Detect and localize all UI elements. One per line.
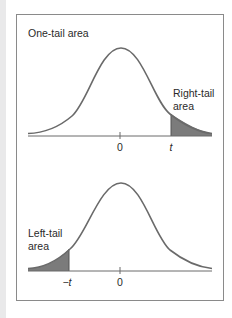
bottom-zero-label: 0 bbox=[117, 276, 123, 288]
bottom-neg-t-label: −t bbox=[62, 276, 72, 288]
left-tail-label-line2: area bbox=[28, 240, 49, 252]
one-tail-area-title: One-tail area bbox=[28, 27, 89, 39]
right-tail-label-line2: area bbox=[173, 100, 194, 112]
top-zero-label: 0 bbox=[117, 141, 123, 153]
right-tail-label-line1: Right-tail bbox=[173, 87, 214, 99]
left-tail-label-line1: Left-tail bbox=[28, 227, 62, 239]
diagram-frame bbox=[17, 15, 224, 301]
tail-area-diagram: One-tail area 0 t Right-tail area −t 0 L… bbox=[0, 0, 232, 318]
